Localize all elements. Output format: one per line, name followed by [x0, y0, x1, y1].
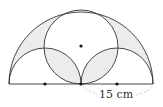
circle-center-dot [79, 44, 82, 47]
left-center-dot [43, 82, 46, 85]
right-center-dot [115, 82, 118, 85]
measurement-label: 15 cm [98, 88, 134, 101]
geometry-diagram [0, 0, 163, 107]
big-center-dot [79, 82, 82, 85]
